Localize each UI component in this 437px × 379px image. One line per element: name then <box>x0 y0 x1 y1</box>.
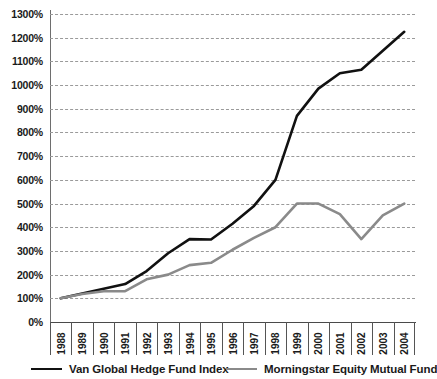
series-container <box>50 14 415 322</box>
x-tick-label: 1991 <box>120 332 131 354</box>
y-tick-label: 0% <box>28 316 43 328</box>
legend-swatch-van-global <box>31 368 62 370</box>
x-tick-separator <box>200 322 201 355</box>
legend-label-morningstar: Morningstar Equity Mutual Fund <box>264 363 437 375</box>
x-tick-separator <box>308 322 309 355</box>
legend-label-van-global: Van Global Hedge Fund Index <box>69 363 229 375</box>
legend-swatch-morningstar <box>226 368 257 370</box>
y-tick-label: 1000% <box>11 79 43 91</box>
x-tick-label: 1998 <box>270 332 281 354</box>
y-tick-label: 400% <box>17 221 43 233</box>
x-tick-separator <box>179 322 180 355</box>
x-tick-label: 1988 <box>55 332 66 354</box>
x-tick-separator <box>372 322 373 355</box>
x-tick-label: 1999 <box>291 332 302 354</box>
x-tick-separator <box>114 322 115 355</box>
series-line-morningstar-equity-mutual-fund <box>61 204 405 299</box>
plot-area <box>50 14 415 322</box>
legend-entry-morningstar: Morningstar Equity Mutual Fund <box>226 359 437 379</box>
y-tick-label: 1300% <box>11 8 43 20</box>
x-tick-separator <box>394 322 395 355</box>
chart-legend: Van Global Hedge Fund Index Morningstar … <box>0 359 422 379</box>
x-tick-separator <box>414 322 415 355</box>
x-tick-label: 2001 <box>334 332 345 354</box>
y-tick-label: 500% <box>17 198 43 210</box>
x-tick-label: 2002 <box>356 332 367 354</box>
y-tick-label: 600% <box>17 174 43 186</box>
x-tick-separator <box>351 322 352 355</box>
y-tick-label: 100% <box>17 292 43 304</box>
legend-entry-van-global: Van Global Hedge Fund Index <box>31 359 229 379</box>
x-tick-separator <box>329 322 330 355</box>
x-tick-label: 1993 <box>163 332 174 354</box>
x-tick-label: 2004 <box>399 332 410 354</box>
x-tick-label: 1994 <box>184 332 195 354</box>
x-tick-label: 1989 <box>77 332 88 354</box>
x-tick-label: 1990 <box>98 332 109 354</box>
x-tick-separator <box>136 322 137 355</box>
x-tick-label: 1996 <box>227 332 238 354</box>
x-tick-separator <box>93 322 94 355</box>
x-tick-separator <box>71 322 72 355</box>
x-tick-label: 2003 <box>377 332 388 354</box>
y-axis: 1300%1200%1100%1000%900%800%700%600%500%… <box>0 0 46 330</box>
x-tick-label: 1992 <box>141 332 152 354</box>
x-tick-separator <box>286 322 287 355</box>
y-tick-label: 800% <box>17 126 43 138</box>
y-tick-label: 200% <box>17 269 43 281</box>
x-axis: 1988198919901991199219931994199519961997… <box>50 322 415 355</box>
x-tick-label: 2000 <box>313 332 324 354</box>
y-tick-label: 900% <box>17 103 43 115</box>
y-tick-label: 300% <box>17 245 43 257</box>
x-tick-separator <box>157 322 158 355</box>
series-line-van-global-hedge-fund-index <box>61 32 405 299</box>
x-tick-label: 1997 <box>248 332 259 354</box>
y-tick-label: 1200% <box>11 32 43 44</box>
x-tick-label: 1995 <box>206 332 217 354</box>
y-tick-label: 1100% <box>12 55 43 67</box>
x-tick-separator <box>265 322 266 355</box>
x-tick-separator <box>222 322 223 355</box>
y-tick-label: 700% <box>17 150 43 162</box>
x-tick-separator <box>50 322 51 355</box>
x-tick-separator <box>243 322 244 355</box>
